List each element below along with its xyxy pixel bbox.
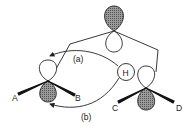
label-arrow-a: (a) xyxy=(73,54,84,64)
top-p-orbital xyxy=(105,6,124,52)
right-orbital-upper-lobe xyxy=(138,66,155,88)
top-orbital-lower-lobe xyxy=(106,31,123,52)
left-p-orbital xyxy=(18,60,75,102)
top-orbital-upper-lobe-shaded xyxy=(105,6,124,31)
arrow-a xyxy=(50,51,118,66)
label-substituent-C: C xyxy=(112,103,118,113)
diagram-canvas: (a) (b) H A B C D xyxy=(0,0,193,126)
label-substituent-B: B xyxy=(75,93,81,103)
left-orbital-upper-lobe xyxy=(39,60,56,81)
label-substituent-D: D xyxy=(176,103,182,113)
arrow-b xyxy=(50,78,119,107)
label-arrow-b: (b) xyxy=(81,112,92,122)
label-substituent-A: A xyxy=(12,93,18,103)
label-hydrogen: H xyxy=(123,68,129,78)
orbital-diagram: (a) (b) H A B C D xyxy=(0,0,193,126)
